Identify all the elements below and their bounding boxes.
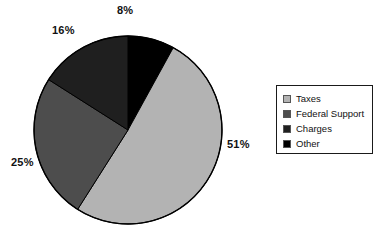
pie-chart: 8% 16% 25% 51% Taxes Federal Support Cha… <box>0 0 378 236</box>
legend-label-federal-support: Federal Support <box>296 109 364 119</box>
legend-swatch-federal-support <box>283 110 291 118</box>
legend-item-taxes[interactable]: Taxes <box>283 91 372 106</box>
legend-swatch-other <box>283 140 291 148</box>
pie-slices <box>34 36 222 224</box>
legend-swatch-taxes <box>283 95 291 103</box>
slice-label-charges: 16% <box>52 25 75 36</box>
legend: Taxes Federal Support Charges Other <box>276 85 373 154</box>
legend-item-federal-support[interactable]: Federal Support <box>283 106 372 121</box>
slice-label-other: 8% <box>117 5 133 16</box>
legend-label-charges: Charges <box>296 124 332 134</box>
slice-label-taxes: 51% <box>227 139 250 150</box>
legend-label-taxes: Taxes <box>296 94 321 104</box>
slice-label-federal-support: 25% <box>11 157 34 168</box>
legend-label-other: Other <box>296 139 320 149</box>
legend-swatch-charges <box>283 125 291 133</box>
legend-item-charges[interactable]: Charges <box>283 121 372 136</box>
legend-item-other[interactable]: Other <box>283 136 372 151</box>
